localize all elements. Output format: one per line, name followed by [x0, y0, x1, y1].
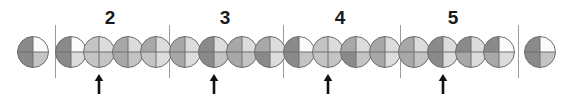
- arrow-shaft: [327, 79, 330, 94]
- group-label-3: 3: [220, 8, 231, 27]
- arrow-group-2: [94, 74, 105, 98]
- arrow-shaft: [98, 79, 101, 94]
- arrow-head: [95, 74, 104, 81]
- quadrant-circle-sequence-figure: 2345: [0, 0, 574, 102]
- arrow-group-5: [438, 74, 449, 98]
- quadrant-circle-18: [524, 36, 557, 69]
- arrow-group-4: [323, 74, 334, 98]
- arrow-head: [210, 74, 219, 81]
- arrow-shaft: [442, 79, 445, 94]
- group-label-4: 4: [335, 8, 346, 27]
- arrow-shaft: [213, 79, 216, 94]
- group-label-5: 5: [448, 8, 459, 27]
- arrow-group-3: [209, 74, 220, 98]
- arrow-head: [324, 74, 333, 81]
- separator-5: [518, 25, 519, 78]
- arrow-head: [439, 74, 448, 81]
- quadrant-circle-1: [17, 36, 50, 69]
- group-label-2: 2: [105, 8, 116, 27]
- quadrant-circle-17: [483, 36, 516, 69]
